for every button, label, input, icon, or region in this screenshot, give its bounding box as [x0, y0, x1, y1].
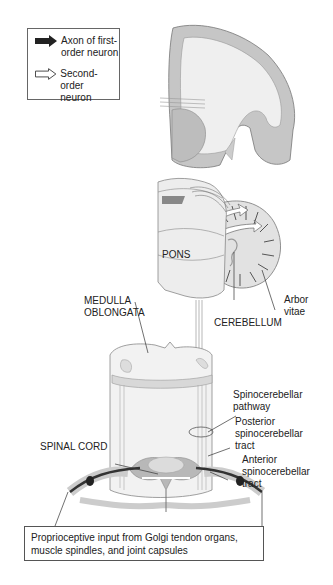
legend-label-line2: neuron	[60, 92, 119, 104]
legend-label-line2: order neuron	[61, 47, 118, 59]
label-spinocerebellar-pathway-line1: Spinocerebellar	[233, 389, 303, 401]
legend-label-line1: Second-order	[60, 68, 119, 92]
label-pons: PONS	[162, 249, 190, 261]
legend-label-line1: Axon of first-	[61, 35, 118, 47]
legend-item-first-order: Axon of first-order neuron	[35, 35, 118, 59]
caption-line2: muscle spindles, and joint capsules	[31, 544, 257, 557]
cerebrum-section	[160, 25, 295, 167]
legend-item-second-order: Second-orderneuron	[35, 68, 119, 104]
caption-box: Proprioceptive input from Golgi tendon o…	[24, 526, 264, 561]
legend: Axon of first-order neuron Second-ordern…	[27, 28, 120, 100]
label-posterior-line2: spinocerebellar	[235, 428, 303, 440]
label-anterior-line3: tract	[242, 478, 261, 490]
label-posterior-line3: tract	[235, 440, 254, 452]
label-medulla-line2: OBLONGATA	[84, 307, 145, 319]
label-arbor-line2: vitae	[284, 306, 305, 318]
label-posterior-line1: Posterior	[235, 416, 275, 428]
outline-arrow-icon	[35, 68, 56, 80]
spinal-cord-column	[70, 342, 262, 512]
label-anterior-line2: spinocerebellar	[242, 466, 310, 478]
label-arbor-line1: Arbor	[284, 294, 308, 306]
label-spinocerebellar-pathway-line2: pathway	[233, 401, 270, 413]
label-medulla-line1: MEDULLA	[84, 295, 131, 307]
label-cerebellum: CEREBELLUM	[214, 317, 282, 329]
filled-arrow-icon	[35, 35, 57, 47]
label-spinal-cord: SPINAL CORD	[40, 441, 107, 453]
label-anterior-line1: Anterior	[242, 454, 277, 466]
caption-line1: Proprioceptive input from Golgi tendon o…	[31, 531, 257, 544]
